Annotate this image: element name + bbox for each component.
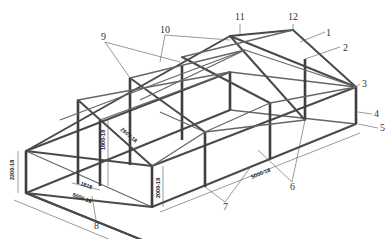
dim-post-height: 2000-18 bbox=[155, 178, 161, 198]
dim-width: 5000-18 bbox=[72, 191, 93, 204]
dimension-lines bbox=[14, 120, 360, 239]
callout-9: 9 bbox=[101, 31, 106, 42]
callout-6: 6 bbox=[290, 181, 295, 192]
callout-10: 10 bbox=[160, 24, 170, 35]
callout-12: 12 bbox=[288, 11, 298, 22]
callout-4: 4 bbox=[374, 108, 379, 119]
callout-2: 2 bbox=[343, 42, 348, 53]
eave-frame bbox=[26, 72, 356, 207]
dim-door-height: 1800-18 bbox=[100, 130, 106, 150]
tent-frame-diagram: 2200-18 1800-18 2907-18 1818 5000-18 200… bbox=[0, 0, 391, 239]
callouts: 1 2 3 4 5 6 7 8 9 10 11 12 bbox=[94, 11, 385, 231]
callout-5: 5 bbox=[380, 122, 385, 133]
callout-11: 11 bbox=[235, 11, 245, 22]
frame-drawing: 2200-18 1800-18 2907-18 1818 5000-18 200… bbox=[0, 0, 391, 239]
ground-frame bbox=[26, 110, 356, 239]
callout-3: 3 bbox=[362, 78, 367, 89]
callout-8: 8 bbox=[94, 220, 99, 231]
dim-bay-width: 1818 bbox=[80, 180, 94, 190]
dim-height-left: 2200-18 bbox=[9, 160, 15, 180]
callout-1: 1 bbox=[326, 27, 331, 38]
callout-7: 7 bbox=[223, 201, 228, 212]
dim-length: 5000-18 bbox=[250, 167, 271, 180]
roof-frame bbox=[26, 30, 356, 166]
